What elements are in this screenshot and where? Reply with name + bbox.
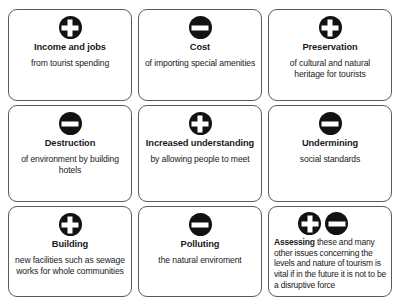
plus-circle-icon [319, 16, 342, 39]
card-title: Cost [190, 42, 210, 53]
icon-row [189, 112, 212, 135]
card-title: Preservation [302, 42, 357, 53]
card-title: Polluting [181, 239, 220, 250]
card-increased-understanding: Increased understanding by allowing peop… [138, 105, 262, 202]
card-body: of environment by building hotels [14, 154, 126, 176]
card-body: of cultural and natural heritage for tou… [274, 58, 386, 80]
card-income-and-jobs: Income and jobs from tourist spending [8, 9, 132, 101]
icon-row [59, 213, 82, 236]
icon-row [189, 16, 212, 39]
card-title: Assessing [274, 237, 315, 247]
icon-row [59, 16, 82, 39]
card-body: by allowing people to meet [150, 154, 249, 165]
icon-row [189, 213, 212, 236]
minus-circle-icon [189, 213, 212, 236]
card-destruction: Destruction of environment by building h… [8, 105, 132, 202]
icon-row [319, 112, 342, 135]
card-title: Destruction [45, 138, 96, 149]
plus-circle-icon [298, 212, 321, 235]
card-title: Building [52, 239, 88, 250]
card-building: Building new facilities such as sewage w… [8, 206, 132, 297]
card-paragraph: Assessing these and many other issues co… [274, 237, 386, 290]
card-title: Undermining [302, 138, 358, 149]
card-body: new facilities such as sewage works for … [14, 255, 126, 277]
minus-circle-icon [189, 16, 212, 39]
card-body: the natural enviroment [158, 255, 241, 266]
card-title: Increased understanding [146, 138, 254, 149]
icon-row [319, 16, 342, 39]
card-cost: Cost of importing special amenities [138, 9, 262, 101]
plus-circle-icon [59, 213, 82, 236]
minus-circle-icon [59, 112, 82, 135]
plus-circle-icon [189, 112, 212, 135]
icon-row [59, 112, 82, 135]
impacts-card-grid: Income and jobs from tourist spending Co… [0, 0, 400, 300]
card-undermining: Undermining social standards [268, 105, 392, 202]
minus-circle-icon [325, 212, 348, 235]
card-polluting: Polluting the natural enviroment [138, 206, 262, 297]
card-title: Income and jobs [34, 42, 106, 53]
plus-circle-icon [59, 16, 82, 39]
icon-row [298, 212, 348, 235]
card-body: social standards [300, 154, 361, 165]
card-preservation: Preservation of cultural and natural her… [268, 9, 392, 101]
card-body: of importing special amenities [145, 58, 255, 69]
card-body: from tourist spending [31, 58, 109, 69]
minus-circle-icon [319, 112, 342, 135]
card-assessing: Assessing these and many other issues co… [268, 206, 392, 297]
